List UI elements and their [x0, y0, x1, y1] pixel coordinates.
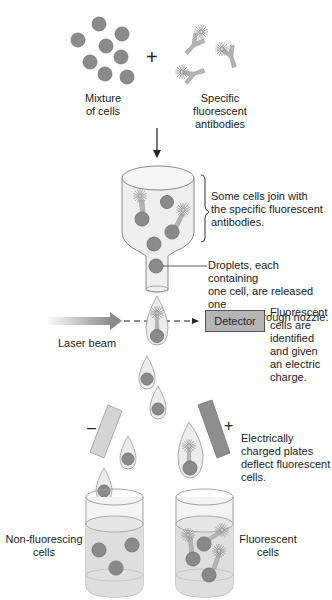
- droplet-laser: [146, 296, 168, 345]
- fluor-label-line: charge.: [270, 371, 332, 384]
- fluorescent-identified-label: Fluorescent cells are identified and giv…: [270, 306, 332, 384]
- fluorcells-label-line: Fluorescent: [238, 533, 298, 546]
- fluor-label-line: identified: [270, 332, 332, 345]
- fluorcells-label-line: cells: [238, 546, 298, 559]
- plates-label-line: charged plates: [241, 445, 332, 458]
- plus-plate-sign: +: [224, 418, 233, 434]
- fluor-label-line: cells are: [270, 319, 332, 332]
- fluor-label-line: and given: [270, 345, 332, 358]
- plates-label: Electrically charged plates deflect fluo…: [241, 432, 332, 484]
- antibodies-label-line: antibodies: [180, 118, 260, 131]
- fluor-label-line: an electric: [270, 358, 332, 371]
- droplet-fluorescent: [178, 422, 203, 478]
- join-label-line: Some cells join with: [211, 190, 332, 203]
- antibodies-label: Specific fluorescent antibodies: [180, 92, 260, 131]
- fluorescent-antibodies: [175, 25, 241, 85]
- join-label-line: the specific fluorescent: [211, 203, 332, 216]
- laser-beam-label: Laser beam: [58, 337, 116, 350]
- droplets-label-line: Droplets, each containing: [208, 259, 332, 285]
- mixture-label-line: of cells: [70, 105, 136, 118]
- mixture-label-line: Mixture: [70, 92, 136, 105]
- nonfluor-label-line: cells: [4, 546, 84, 559]
- fluor-label-line: Fluorescent: [270, 306, 332, 319]
- mixture-label: Mixture of cells: [70, 92, 136, 118]
- arrow-down-icon: [153, 128, 161, 158]
- plus-sign: +: [146, 47, 158, 67]
- droplet: [120, 436, 136, 469]
- fluorescent-cells-label: Fluorescent cells: [238, 533, 298, 559]
- laser-beam-arrow: [46, 312, 199, 330]
- droplet: [139, 356, 155, 389]
- droplet: [150, 386, 166, 419]
- non-fluorescing-label: Non-fluorescing cells: [4, 533, 84, 559]
- antibodies-label-line: fluorescent: [180, 105, 260, 118]
- plates-label-line: Electrically: [241, 432, 332, 445]
- beaker-fluorescent: [176, 489, 233, 597]
- cell-mixture: [71, 17, 134, 84]
- detector-box: Detector: [205, 310, 265, 332]
- plates-label-line: cells.: [241, 471, 332, 484]
- beaker-non-fluorescing: [86, 489, 143, 597]
- nonfluor-label-line: Non-fluorescing: [4, 533, 84, 546]
- brace: [201, 175, 209, 242]
- nozzle-funnel: [122, 166, 194, 292]
- droplet: [96, 468, 112, 501]
- minus-sign: –: [87, 420, 96, 436]
- antibodies-label-line: Specific: [180, 92, 260, 105]
- plates-label-line: deflect fluorescent: [241, 458, 332, 471]
- join-label-line: antibodies.: [211, 216, 332, 229]
- join-label: Some cells join with the specific fluore…: [211, 190, 332, 229]
